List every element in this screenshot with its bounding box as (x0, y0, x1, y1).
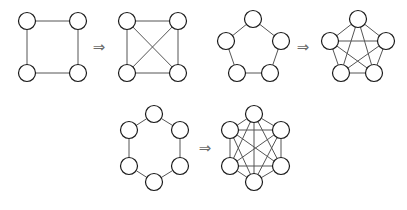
graph-node (273, 158, 290, 175)
graph-edge (237, 171, 247, 178)
graph-node (273, 122, 290, 139)
graph-edge (273, 49, 278, 65)
graph-edge (261, 118, 273, 125)
graph-node (170, 13, 187, 30)
graph-node (218, 33, 235, 50)
graph-node (273, 33, 290, 50)
graph-node (119, 65, 136, 82)
transform-arrow-1: ⇒ (93, 38, 106, 56)
complete-graph-k4-edges (127, 21, 178, 73)
cycle-graph-c4-edges (27, 21, 78, 73)
graph-node (70, 65, 87, 82)
graph-node (19, 13, 36, 30)
graph-node (146, 174, 163, 191)
graph-edge (360, 27, 371, 65)
cycle-graph-c5-nodes (218, 11, 290, 82)
graph-node (245, 11, 262, 28)
graph-edge (161, 170, 173, 177)
graph-node (119, 13, 136, 30)
graph-node (262, 65, 279, 82)
graph-edge (337, 24, 352, 36)
transform-arrow-2: ⇒ (297, 38, 310, 56)
panel-c4-k4: ⇒ (19, 13, 187, 82)
graph-node (350, 11, 367, 28)
graph-node (70, 13, 87, 30)
graph-node (121, 158, 138, 175)
graph-node (172, 122, 189, 139)
graph-node (170, 65, 187, 82)
graph-node (378, 33, 395, 50)
complete-graph-k5 (322, 11, 395, 82)
graph-edge (136, 171, 147, 178)
transform-arrow-3: ⇒ (199, 139, 212, 157)
graph-node (366, 65, 383, 82)
graph-edge (261, 170, 273, 177)
graph-edge (233, 24, 247, 35)
graph-edge (365, 24, 380, 36)
graph-node (121, 122, 138, 139)
cycle-graph-c5 (218, 11, 290, 82)
panel-c6-k6: ⇒ (121, 106, 290, 191)
graph-node (172, 158, 189, 175)
graph-edge (161, 118, 173, 125)
graph-node (229, 65, 246, 82)
graph-edge (136, 119, 147, 126)
complete-graph-k6 (222, 106, 290, 191)
graph-edge (237, 119, 247, 126)
graph-node (222, 122, 239, 139)
graph-node (222, 158, 239, 175)
graph-node (246, 174, 263, 191)
cycle-graph-c6 (121, 106, 189, 191)
graph-edge (260, 24, 275, 36)
graph-node (19, 65, 36, 82)
graph-node (146, 106, 163, 123)
cycle-graph-c6-nodes (121, 106, 189, 191)
graph-edge (333, 49, 338, 65)
graph-node (246, 106, 263, 123)
complete-graph-k4 (119, 13, 187, 82)
graph-edge (344, 27, 356, 65)
graph-edge (377, 49, 383, 65)
figure-root: ⇒⇒⇒ (0, 0, 407, 210)
cycle-graph-c4 (19, 13, 87, 82)
cycle-graph-c4-nodes (19, 13, 87, 82)
graph-node (322, 33, 339, 50)
graph-edge (229, 49, 234, 65)
graph-node (333, 65, 350, 82)
panel-c5-k5: ⇒ (218, 11, 395, 82)
graph-transformation-figure: ⇒⇒⇒ (0, 0, 407, 210)
complete-graph-k5-nodes (322, 11, 395, 82)
